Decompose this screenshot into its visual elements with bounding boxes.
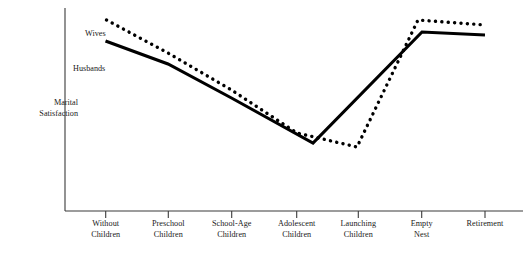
marital-satisfaction-line-chart (0, 0, 525, 255)
x-axis-tick-label-1: PreschoolChildren (152, 219, 185, 240)
tick-label-line2: Nest (414, 230, 429, 239)
series-label-husbands: Husbands (73, 64, 105, 74)
tick-label-line1: Empty (411, 219, 433, 228)
series-line-wives (107, 20, 486, 147)
y-axis-title-line1: Marital (54, 98, 78, 107)
x-axis-tick-label-5: EmptyNest (411, 219, 433, 240)
x-axis-tick-label-0: WithoutChildren (91, 219, 120, 240)
y-axis-title: MaritalSatisfaction (0, 98, 78, 119)
tick-label-line1: Preschool (152, 219, 185, 228)
tick-label-line1: Adolescent (278, 219, 315, 228)
tick-label-line1: Launching (341, 219, 376, 228)
tick-label-line2: Children (91, 230, 120, 239)
tick-label-line2: Children (217, 230, 246, 239)
x-axis-tick-label-3: AdolescentChildren (278, 219, 315, 240)
tick-label-line2: Children (282, 230, 311, 239)
tick-label-line1: Without (92, 219, 119, 228)
y-axis-title-line2: Satisfaction (39, 109, 78, 118)
chart-page: MaritalSatisfaction Wives Husbands Witho… (0, 0, 525, 255)
series-label-wives: Wives (85, 29, 106, 39)
x-axis-tick-marks (106, 211, 485, 218)
x-axis-tick-label-4: LaunchingChildren (341, 219, 376, 240)
x-axis-tick-label-2: School-AgeChildren (212, 219, 252, 240)
x-axis-tick-label-6: Retirement (467, 219, 504, 230)
tick-label-line1: Retirement (467, 219, 504, 228)
tick-label-line1: School-Age (212, 219, 252, 228)
tick-label-line2: Children (154, 230, 183, 239)
tick-label-line2: Children (344, 230, 373, 239)
